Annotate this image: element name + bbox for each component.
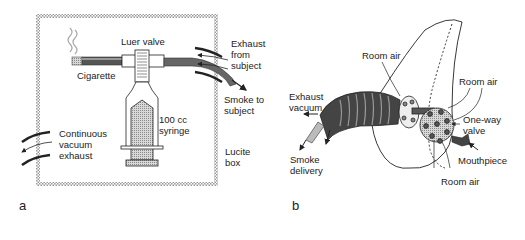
exhaust-from-subject-label: Exhaust from subject [231,38,265,71]
lucite-box-label: Lucite box [225,146,250,168]
one-way-valve [420,108,454,143]
exhaust-vacuum-label: Exhaust vacuum [289,91,323,113]
cigarette-label: Cigarette [77,70,116,81]
vacuum-exhaust-label: Continuous vacuum exhaust [59,128,107,161]
syringe-label: 100 cc syringe [159,114,190,136]
smoke-to-subject-label: Smoke to subject [224,94,264,116]
syringe [121,82,163,166]
smoke-delivery-label: Smoke delivery [290,154,323,176]
room-air-bottom-label: Room air [441,176,480,187]
panel-a-letter: a [19,198,26,213]
room-air-right-label: Room air [459,76,498,87]
smoke-wisps-icon [68,28,77,54]
room-air-top-label: Room air [362,50,401,61]
cigarette [72,57,122,65]
luer-valve [122,50,164,82]
panel-b-letter: b [292,198,299,213]
luer-valve-label: Luer valve [121,36,165,47]
one-way-valve-label: One-way valve [463,114,501,136]
mouthpiece-label: Mouthpiece [458,155,507,166]
mouthpiece [452,134,478,150]
